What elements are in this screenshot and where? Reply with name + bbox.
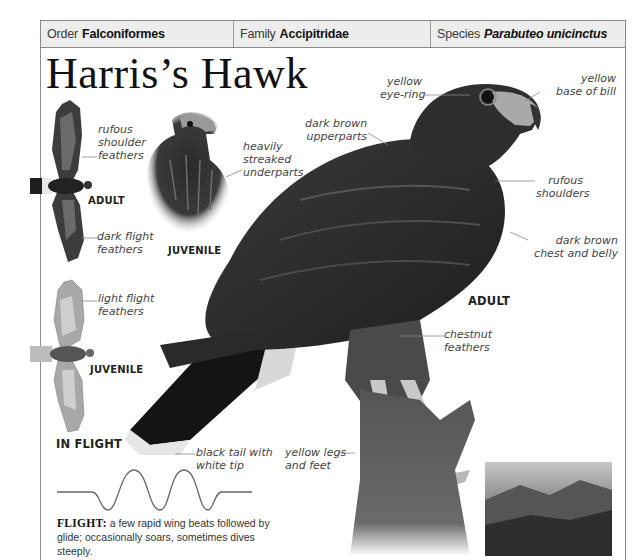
label-line: rufous (98, 123, 146, 136)
juvenile-portrait-tag: JUVENILE (168, 245, 221, 256)
label-line: feathers (444, 341, 492, 354)
label-heavily-streaked: heavily streaked underparts (243, 140, 304, 179)
label-line: rufous (536, 174, 583, 187)
label-line: feathers (97, 243, 154, 256)
label-black-tail: black tail with white tip (196, 446, 273, 472)
label-line: yellow legs (285, 446, 346, 459)
label-line: black tail with (196, 446, 273, 459)
label-line: dark flight (97, 230, 154, 243)
label-line: upperparts (305, 130, 367, 143)
label-dark-brown-upperparts: dark brown upperparts (305, 117, 367, 143)
label-light-flight-feathers: light flight feathers (98, 292, 154, 318)
adult-flight-tag: ADULT (88, 195, 125, 206)
flight-heading: FLIGHT: (57, 517, 107, 529)
juvenile-portrait-illustration (147, 112, 230, 235)
label-line: chestnut (444, 328, 492, 341)
label-line: shoulder (98, 136, 146, 149)
label-line: underparts (243, 166, 304, 179)
label-line: yellow (540, 72, 616, 85)
adult-main-tag: ADULT (468, 294, 510, 308)
in-flight-heading: IN FLIGHT (56, 437, 122, 451)
juvenile-flight-tag: JUVENILE (90, 364, 143, 375)
label-line: and feet (285, 459, 346, 472)
flight-pattern-wave (57, 470, 252, 510)
label-dark-brown-chest: dark brown chest and belly (528, 234, 618, 260)
label-yellow-eye-ring: yellow eye-ring (380, 75, 422, 101)
label-dark-flight-feathers: dark flight feathers (97, 230, 154, 256)
label-line: feathers (98, 305, 154, 318)
label-line: shoulders (536, 187, 583, 200)
label-line: dark brown (305, 117, 367, 130)
label-yellow-legs: yellow legs and feet (285, 446, 346, 472)
label-line: feathers (98, 149, 146, 162)
juvenile-flight-illustration (30, 280, 94, 432)
label-rufous-shoulder: rufous shoulder feathers (98, 123, 146, 162)
label-yellow-base-of-bill: yellow base of bill (540, 72, 616, 98)
label-line: white tip (196, 459, 273, 472)
label-line: streaked (243, 153, 304, 166)
label-line: light flight (98, 292, 154, 305)
label-rufous-shoulders: rufous shoulders (536, 174, 583, 200)
label-line: dark brown (528, 234, 618, 247)
label-line: heavily (243, 140, 304, 153)
label-line: chest and belly (528, 247, 618, 260)
habitat-photo (485, 462, 612, 556)
label-line: eye-ring (380, 88, 422, 101)
label-line: base of bill (540, 85, 616, 98)
flight-description: FLIGHT: a few rapid wing beats followed … (57, 516, 277, 558)
label-chestnut-feathers: chestnut feathers (444, 328, 492, 354)
label-line: yellow (380, 75, 422, 88)
